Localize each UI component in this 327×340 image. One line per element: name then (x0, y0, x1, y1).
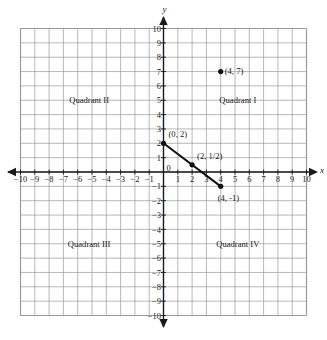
origin-label: 0 (166, 163, 170, 173)
y-tick-label: −9 (152, 296, 161, 306)
x-tick-label: 6 (247, 174, 251, 184)
y-tick-label: −2 (152, 196, 161, 206)
y-tick-label: −4 (152, 225, 162, 235)
data-point-label: (4, 7) (225, 66, 244, 76)
x-tick-label: −6 (73, 174, 82, 184)
quadrant-label: Quadrant II (69, 95, 109, 105)
axis-names: yx (162, 4, 325, 175)
y-axis-label: y (162, 4, 167, 14)
axes (7, 16, 318, 328)
data-point-label: (4, -1) (218, 193, 240, 203)
y-tick-label: 6 (157, 81, 161, 91)
data-point-marker (218, 184, 223, 189)
y-tick-label: 7 (157, 67, 161, 77)
x-tick-label: 5 (233, 174, 237, 184)
x-tick-label: −5 (87, 174, 96, 184)
y-tick-label: −1 (152, 181, 161, 191)
x-tick-label: 4 (219, 174, 224, 184)
y-tick-label: 2 (157, 138, 161, 148)
quadrant-label: Quadrant I (219, 95, 256, 105)
y-tick-label: −3 (152, 210, 161, 220)
x-tick-label: −3 (116, 174, 125, 184)
x-tick-label: −2 (130, 174, 139, 184)
graph-canvas: yx−10−9−8−7−6−5−4−3−2−112345678910010987… (0, 0, 327, 340)
x-tick-label: 2 (190, 174, 194, 184)
data-point-marker (218, 69, 223, 74)
y-tick-label: −7 (152, 268, 161, 278)
data-point-label: (2, 1/2) (197, 151, 222, 161)
y-tick-label: 1 (157, 153, 161, 163)
y-tick-label: 3 (157, 124, 161, 134)
x-tick-label: −8 (45, 174, 54, 184)
y-tick-label: 5 (157, 95, 161, 105)
x-axis-label: x (319, 165, 324, 175)
x-tick-label: −9 (30, 174, 39, 184)
y-tick-label: 10 (153, 24, 162, 34)
x-tick-label: −10 (14, 174, 27, 184)
quadrant-label: Quadrant IV (216, 239, 260, 249)
coordinate-plane-graph: yx−10−9−8−7−6−5−4−3−2−112345678910010987… (0, 0, 327, 340)
x-tick-label: 7 (261, 174, 265, 184)
y-tick-label: −6 (152, 253, 161, 263)
x-tick-label: 10 (302, 174, 311, 184)
y-tick-label: 9 (157, 38, 161, 48)
quadrant-label: Quadrant III (68, 239, 111, 249)
x-tick-label: −4 (102, 174, 112, 184)
y-tick-label: −10 (148, 311, 161, 321)
y-tick-label: 8 (157, 52, 161, 62)
plotted-points: (4, 7)(0, 2)(2, 1/2)(4, -1) (161, 66, 244, 203)
x-tick-label: 9 (290, 174, 294, 184)
x-tick-label: 1 (176, 174, 180, 184)
x-tick-label: −7 (59, 174, 68, 184)
y-tick-label: −8 (152, 282, 161, 292)
y-tick-label: −5 (152, 239, 161, 249)
x-tick-label: 8 (276, 174, 280, 184)
data-point-marker (190, 162, 195, 167)
data-point-marker (161, 141, 166, 146)
data-point-label: (0, 2) (169, 129, 188, 139)
